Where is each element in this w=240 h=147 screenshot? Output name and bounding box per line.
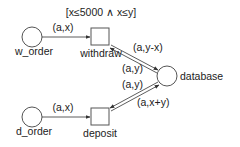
place-database	[157, 66, 177, 86]
transition-withdraw	[91, 28, 109, 45]
transition-deposit	[91, 108, 109, 125]
arc-deposit-database-label: (a,x+y)	[137, 96, 169, 108]
place-d-order-label: d_order	[16, 125, 53, 137]
withdraw-guard: [x≤5000 ∧ x≤y]	[66, 6, 136, 18]
arc-d-order-deposit-label: (a,x)	[53, 101, 74, 113]
transition-deposit-label: deposit	[83, 127, 117, 139]
place-w-order-label: w_order	[14, 45, 53, 57]
arc-withdraw-database-label: (a,y-x)	[133, 41, 163, 53]
petri-net-diagram: [x≤5000 ∧ x≤y] w_order withdraw (a,x) da…	[0, 0, 240, 147]
place-d-order	[22, 107, 42, 127]
arc-database-withdraw-label: (a,y)	[122, 62, 143, 74]
arc-database-deposit-label: (a,y)	[122, 78, 143, 90]
arc-w-order-withdraw-label: (a,x)	[53, 21, 74, 33]
place-w-order	[22, 27, 42, 47]
place-database-label: database	[180, 70, 223, 82]
transition-withdraw-label: withdraw	[79, 47, 122, 59]
